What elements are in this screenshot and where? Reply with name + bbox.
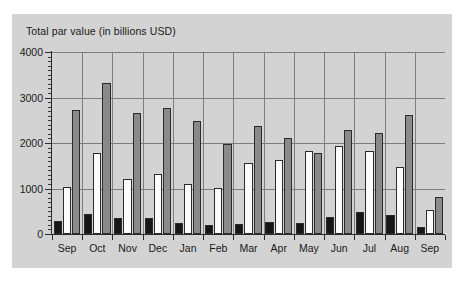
bar <box>435 197 443 234</box>
x-axis-tick <box>415 235 416 240</box>
y-axis-minor-tick <box>48 179 51 180</box>
gridline-horizontal <box>52 52 445 53</box>
y-axis-labels: 01000200030004000 <box>0 0 43 281</box>
bar <box>102 83 110 234</box>
x-axis-tick <box>112 235 113 240</box>
gridline-vertical <box>173 52 174 234</box>
x-axis-tick-label: Jun <box>331 242 348 254</box>
bar <box>114 218 122 234</box>
gridline-horizontal <box>52 143 445 144</box>
y-axis-minor-tick <box>48 88 51 89</box>
x-axis-tick <box>233 235 234 240</box>
bar <box>63 187 71 234</box>
bar <box>314 153 322 234</box>
bar <box>54 221 62 234</box>
y-axis-minor-tick <box>48 70 51 71</box>
bar <box>163 108 171 234</box>
x-axis-tick-label: Sep <box>58 242 77 254</box>
y-axis-minor-tick <box>48 125 51 126</box>
y-axis-minor-tick <box>48 138 51 139</box>
bar <box>386 215 394 234</box>
y-axis-minor-tick <box>48 120 51 121</box>
x-axis-tick-label: Feb <box>209 242 227 254</box>
gridline-vertical <box>415 52 416 234</box>
bar <box>175 223 183 234</box>
bar <box>193 121 201 234</box>
gridline-vertical <box>294 52 295 234</box>
y-axis-minor-tick <box>48 148 51 149</box>
y-axis-minor-tick <box>48 93 51 94</box>
bar <box>254 126 262 234</box>
y-axis-tick-label: 0 <box>37 228 43 240</box>
x-axis-tick-label: Jul <box>363 242 376 254</box>
gridline-vertical <box>354 52 355 234</box>
y-axis-minor-tick <box>48 134 51 135</box>
y-axis-minor-tick <box>48 202 51 203</box>
bar <box>84 214 92 234</box>
x-axis-tick-label: Mar <box>239 242 257 254</box>
x-axis-tick-label: Oct <box>89 242 105 254</box>
y-axis-minor-tick <box>48 216 51 217</box>
bar <box>145 218 153 234</box>
bar <box>133 113 141 234</box>
bar <box>396 167 404 234</box>
bar <box>184 184 192 234</box>
y-axis-minor-tick <box>48 198 51 199</box>
y-axis-tick-label: 4000 <box>20 46 43 58</box>
bar <box>405 115 413 234</box>
gridline-vertical <box>82 52 83 234</box>
y-axis-minor-tick <box>48 129 51 130</box>
x-axis-tick <box>82 235 83 240</box>
x-axis-tick-label: Jan <box>180 242 197 254</box>
bar <box>426 210 434 234</box>
y-axis-minor-tick <box>48 229 51 230</box>
x-axis-line <box>51 234 445 235</box>
y-axis-tick <box>45 234 51 235</box>
x-axis-tick-label: Aug <box>390 242 409 254</box>
bar <box>205 225 213 234</box>
x-axis-tick <box>385 235 386 240</box>
y-axis-tick <box>45 98 51 99</box>
y-axis-minor-tick <box>48 157 51 158</box>
x-axis-tick-label: Sep <box>421 242 440 254</box>
bar <box>72 110 80 234</box>
y-axis-minor-tick <box>48 66 51 67</box>
y-axis-tick <box>45 143 51 144</box>
y-axis-minor-tick <box>48 193 51 194</box>
bar <box>305 151 313 234</box>
bar <box>235 224 243 234</box>
y-axis-minor-tick <box>48 61 51 62</box>
bar <box>154 174 162 235</box>
y-axis-minor-tick <box>48 116 51 117</box>
y-axis-minor-tick <box>48 175 51 176</box>
bar <box>296 223 304 234</box>
y-axis-minor-tick <box>48 152 51 153</box>
bar <box>244 163 252 234</box>
bar <box>375 133 383 234</box>
y-axis-minor-tick <box>48 225 51 226</box>
y-axis-minor-tick <box>48 220 51 221</box>
y-axis-tick <box>45 52 51 53</box>
x-axis-tick-label: Dec <box>148 242 167 254</box>
x-axis-tick-label: Nov <box>118 242 137 254</box>
x-axis-tick <box>324 235 325 240</box>
bar <box>214 188 222 234</box>
y-axis-tick <box>45 189 51 190</box>
y-axis-minor-tick <box>48 161 51 162</box>
bar <box>275 160 283 234</box>
gridline-vertical <box>203 52 204 234</box>
x-axis-tick <box>52 235 53 240</box>
y-axis-minor-tick <box>48 207 51 208</box>
bar <box>417 227 425 234</box>
bar <box>123 179 131 234</box>
bar <box>356 212 364 234</box>
y-axis-minor-tick <box>48 166 51 167</box>
y-axis-minor-tick <box>48 102 51 103</box>
gridline-vertical <box>324 52 325 234</box>
gridline-vertical <box>143 52 144 234</box>
y-axis-minor-tick <box>48 107 51 108</box>
y-axis-minor-tick <box>48 111 51 112</box>
y-axis-minor-tick <box>48 75 51 76</box>
bar <box>326 217 334 234</box>
x-axis-tick <box>264 235 265 240</box>
